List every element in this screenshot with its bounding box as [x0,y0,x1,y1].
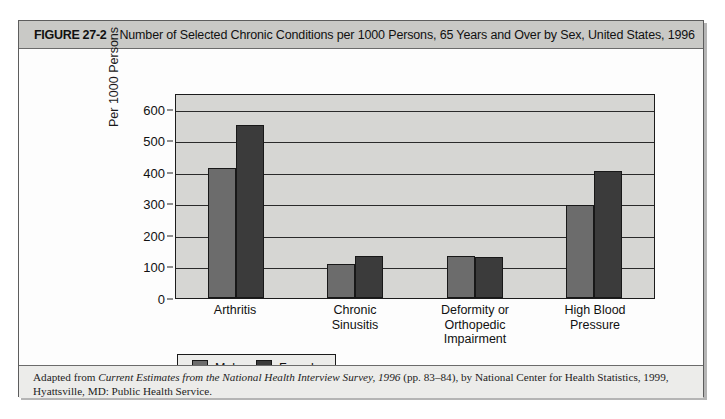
y-tick-label-300: 300 [143,197,165,212]
bar-group [447,95,503,298]
x-axis-label: Arthritis [180,303,290,359]
x-axis-category-labels: ArthritisChronicSinusitisDeformity orOrt… [175,303,655,359]
source-suffix: (pp. 83–84), by National Center for Heal… [400,371,668,383]
y-tick-label-600: 600 [143,102,165,117]
x-axis-label: ChronicSinusitis [300,303,410,359]
figure-title-band: FIGURE 27-2 Number of Selected Chronic C… [19,21,703,49]
source-note: Adapted from Current Estimates from the … [19,365,703,398]
y-tick-mark-200 [167,235,173,236]
bar-male [447,256,475,298]
source-prefix: Adapted from [33,371,98,383]
x-axis-label: Deformity orOrthopedicImpairment [420,303,530,359]
y-tick-label-500: 500 [143,134,165,149]
y-tick-mark-300 [167,204,173,205]
figure-number: FIGURE 27-2 [34,28,106,42]
bar-female [475,257,503,298]
source-publication-title: Current Estimates from the National Heal… [98,371,400,383]
y-tick-mark-600 [167,109,173,110]
figure-frame: FIGURE 27-2 Number of Selected Chronic C… [18,20,704,397]
bar-female [594,171,622,298]
x-axis-label: High BloodPressure [540,303,650,359]
bar-female [236,125,264,298]
bars-layer [176,95,654,298]
bar-chart: Per 1000 Persons 0100200300400500600 Art… [19,49,703,365]
y-tick-mark-400 [167,172,173,173]
y-tick-label-400: 400 [143,165,165,180]
y-tick-label-100: 100 [143,260,165,275]
page-title: Number of Selected Chronic Conditions pe… [119,28,694,42]
figure-body: Per 1000 Persons 0100200300400500600 Art… [19,49,703,365]
y-axis-title: Per 1000 Persons [107,0,121,157]
plot-area [175,94,655,299]
bar-group [327,95,383,298]
y-tick-mark-100 [167,267,173,268]
y-tick-mark-0 [167,299,173,300]
y-tick-label-0: 0 [158,292,165,307]
bar-male [566,205,594,298]
source-note-line-1: Adapted from Current Estimates from the … [33,371,689,385]
y-tick-mark-500 [167,141,173,142]
bar-female [355,256,383,298]
source-note-line-2: Hyattsville, MD: Public Health Service. [33,385,689,399]
bar-male [327,264,355,298]
bar-group [208,95,264,298]
y-tick-label-200: 200 [143,228,165,243]
y-axis-ticks: 0100200300400500600 [131,94,173,299]
bar-male [208,168,236,298]
bar-group [566,95,622,298]
